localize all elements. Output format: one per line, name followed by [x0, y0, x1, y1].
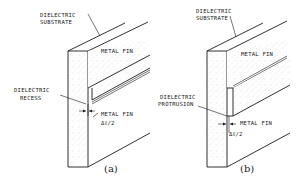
recess-label-line2: RECESS — [20, 95, 41, 101]
metal-fin-bottom-label-a: METAL FIN — [101, 111, 133, 117]
substrate-leader-a — [88, 14, 100, 36]
recess-label-line1: DIELECTRIC — [14, 87, 50, 93]
substrate-label-a-line2: SUBSTRATE — [40, 19, 73, 25]
diagram-canvas: DIELECTRIC SUBSTRATE METAL FIN DIELECTRI… — [0, 0, 306, 187]
metal-fin-top-label-a: METAL FIN — [101, 48, 133, 54]
metal-fin-bottom-label-b: METAL FIN — [240, 120, 272, 126]
substrate-front-face-b — [207, 51, 227, 167]
protrusion-label-line2: PROTRUSION — [158, 101, 194, 107]
delta-label-b: Δℓ/2 — [229, 131, 243, 137]
substrate-label-b-line1: DIELECTRIC — [196, 8, 232, 14]
panel-a: DIELECTRIC SUBSTRATE METAL FIN DIELECTRI… — [14, 12, 150, 174]
delta-label-a: Δℓ/2 — [101, 120, 115, 126]
panel-b: DIELECTRIC SUBSTRATE METAL FIN DIELECTRI… — [158, 8, 290, 174]
metal-fin-top-label-b: METAL FIN — [241, 51, 273, 57]
substrate-label-a-line1: DIELECTRIC — [40, 12, 76, 18]
substrate-label-b-line2: SUBSTRATE — [196, 15, 229, 21]
caption-a: (a) — [104, 163, 118, 174]
protrusion-label-line1: DIELECTRIC — [160, 94, 196, 100]
caption-b: (b) — [240, 163, 254, 174]
substrate-front-face — [68, 51, 88, 167]
